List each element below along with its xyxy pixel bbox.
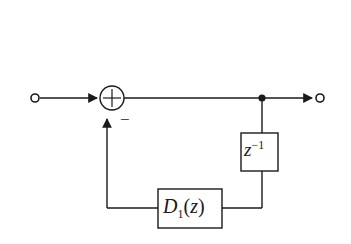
filter-arg-text: z [190, 195, 198, 217]
input-terminal [31, 94, 39, 102]
branch-node-dot [258, 94, 265, 101]
summing-junction-minus-label: − [120, 111, 130, 128]
filter-base-text: D [163, 195, 177, 217]
delay-exponent-text: −1 [251, 138, 264, 152]
delay-block-label: z−1 [244, 139, 264, 159]
block-diagram-figure: z−1 D1(z) − [0, 0, 351, 244]
output-terminal [316, 94, 324, 102]
filter-block-label: D1(z) [163, 196, 205, 220]
filter-close-paren-text: ) [198, 195, 205, 217]
